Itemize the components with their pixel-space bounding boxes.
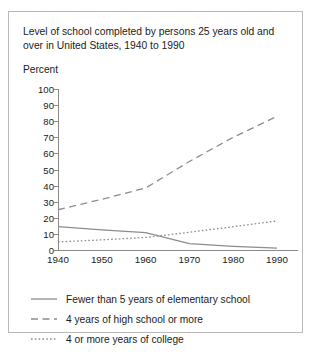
plot-area: 0102030405060708090100 19401950196019701…: [58, 89, 277, 250]
x-tick-label: 1960: [135, 254, 157, 265]
y-tick-label: 70: [30, 132, 54, 143]
y-tick-label: 40: [30, 180, 54, 191]
x-tick-label: 1980: [222, 254, 244, 265]
legend-label: 4 or more years of college: [66, 334, 184, 345]
x-tick-label: 1940: [47, 254, 69, 265]
series-line: [58, 221, 277, 242]
y-tick-label: 80: [30, 116, 54, 127]
series-line: [58, 116, 277, 209]
x-tick-label: 1970: [178, 254, 200, 265]
legend-item: 4 or more years of college: [31, 329, 293, 349]
legend-swatch-solid-icon: [31, 294, 57, 304]
y-tick-label: 30: [30, 196, 54, 207]
y-tick-label: 60: [30, 148, 54, 159]
y-axis-label: Percent: [23, 64, 58, 75]
legend-item: Fewer than 5 years of elementary school: [31, 289, 293, 309]
legend-swatch-dotted-icon: [31, 334, 57, 344]
legend-item: 4 years of high school or more: [31, 309, 293, 329]
figure-frame: Level of school completed by persons 25 …: [8, 11, 303, 333]
chart-legend: Fewer than 5 years of elementary school4…: [31, 289, 293, 349]
x-axis-line: [58, 250, 298, 251]
series-lines: [58, 89, 277, 250]
y-tick-label: 20: [30, 212, 54, 223]
x-tick-label: 1950: [91, 254, 113, 265]
y-tick-label: 50: [30, 164, 54, 175]
legend-swatch-dashed-icon: [31, 314, 57, 324]
y-tick-label: 10: [30, 228, 54, 239]
y-tick-label: 100: [30, 84, 54, 95]
x-tick-label: 1990: [266, 254, 288, 265]
series-line: [58, 227, 277, 248]
legend-label: Fewer than 5 years of elementary school: [66, 294, 250, 305]
chart-title: Level of school completed by persons 25 …: [23, 25, 289, 52]
legend-label: 4 years of high school or more: [66, 314, 203, 325]
y-tick-label: 90: [30, 100, 54, 111]
y-tick-mark: [54, 250, 58, 251]
